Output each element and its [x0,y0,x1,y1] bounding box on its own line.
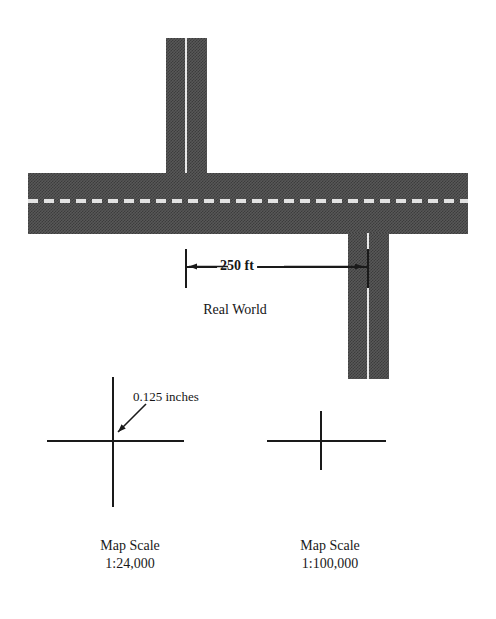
map2-cross-vertical [320,411,322,470]
callout-leader-arrow [118,404,146,432]
map-scale-title-1: Map Scale [100,537,159,555]
map-scale-title-2: Map Scale [300,537,359,555]
map1-cross-vertical [112,377,114,507]
inches-callout-label: 0.125 inches [133,390,199,405]
map-scale-ratio-1: 1:24,000 [100,555,159,573]
dimension-right-tick [367,249,369,288]
map-scale-panel-2: Map Scale 1:100,000 [300,537,359,572]
dimension-value-label: 250 ft [217,258,257,274]
figure-canvas: 250 ft Real World 0.125 inches Map Scale… [0,0,496,619]
road-north-centerline [185,38,187,175]
map-scale-panel-1: Map Scale 1:24,000 [100,537,159,572]
map2-cross-horizontal [267,440,386,442]
map1-cross-horizontal [47,440,184,442]
map-scale-ratio-2: 1:100,000 [300,555,359,573]
dimension-left-tick [185,249,187,288]
road-main-highway [28,173,468,234]
dimension-measure-bar [185,266,368,268]
real-world-section-label: Real World [203,302,267,318]
road-main-dashed-centerline [28,199,468,203]
